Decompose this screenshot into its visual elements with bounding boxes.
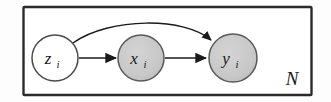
node-y-subscript: i: [235, 58, 238, 70]
node-z-circle: [32, 35, 78, 81]
node-y: y i: [209, 34, 257, 82]
node-x-circle: [118, 35, 164, 81]
node-x-symbol: x: [129, 49, 138, 68]
node-z-subscript: i: [56, 58, 59, 70]
node-z-symbol: z: [44, 49, 52, 68]
plate-count-label: N: [285, 68, 300, 89]
node-z: z i: [32, 35, 78, 81]
node-x-subscript: i: [143, 58, 146, 70]
node-x: x i: [118, 35, 164, 81]
graphical-model-canvas: z i x i y i N: [0, 0, 331, 102]
node-y-circle: [209, 34, 257, 82]
plate-notation-figure: z i x i y i N: [0, 0, 331, 102]
node-y-symbol: y: [220, 49, 230, 68]
